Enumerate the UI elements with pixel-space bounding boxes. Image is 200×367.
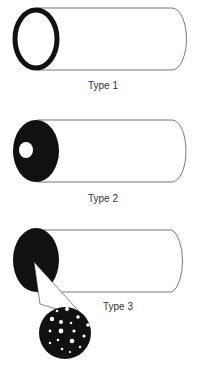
type-2-label: Type 2 xyxy=(88,193,118,204)
tube-types-diagram xyxy=(0,0,200,367)
type-1-label: Type 1 xyxy=(88,80,118,91)
pore-magnification xyxy=(39,307,91,359)
type-2-tube xyxy=(13,120,186,182)
type-1-tube xyxy=(15,8,186,70)
type-3-tube xyxy=(13,228,183,359)
type-3-label: Type 3 xyxy=(103,301,133,312)
